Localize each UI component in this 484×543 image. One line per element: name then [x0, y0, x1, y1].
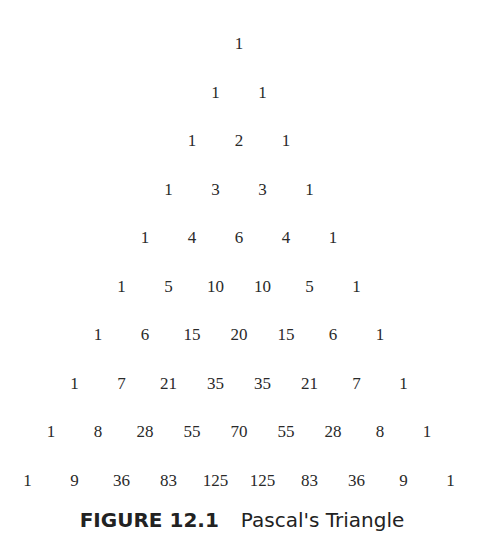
triangle-entry: 1	[423, 420, 432, 444]
triangle-entry: 28	[325, 420, 342, 444]
triangle-entry: 55	[278, 420, 295, 444]
triangle-entry: 1	[235, 32, 244, 56]
triangle-entry: 4	[282, 226, 291, 250]
triangle-entry: 9	[70, 469, 79, 493]
triangle-entry: 9	[399, 469, 408, 493]
triangle-entry: 28	[137, 420, 154, 444]
triangle-entry: 1	[94, 323, 103, 347]
triangle-entry: 1	[117, 275, 126, 299]
triangle-row: 172135352171	[0, 372, 484, 396]
triangle-entry: 8	[376, 420, 385, 444]
triangle-entry: 10	[207, 275, 224, 299]
triangle-entry: 1	[258, 81, 267, 105]
triangle-entry: 1	[329, 226, 338, 250]
figure-label: FIGURE 12.1	[80, 508, 219, 532]
triangle-entry: 3	[258, 178, 267, 202]
triangle-entry: 20	[231, 323, 248, 347]
triangle-entry: 83	[160, 469, 177, 493]
triangle-row: 15101051	[0, 275, 484, 299]
triangle-entry: 36	[348, 469, 365, 493]
triangle-entry: 55	[184, 420, 201, 444]
triangle-entry: 15	[184, 323, 201, 347]
triangle-entry: 2	[235, 129, 244, 153]
triangle-entry: 35	[207, 372, 224, 396]
triangle-entry: 6	[235, 226, 244, 250]
triangle-entry: 8	[94, 420, 103, 444]
triangle-entry: 1	[47, 420, 56, 444]
triangle-entry: 15	[278, 323, 295, 347]
triangle-row: 121	[0, 129, 484, 153]
triangle-entry: 36	[113, 469, 130, 493]
triangle-row: 11	[0, 81, 484, 105]
triangle-row: 1	[0, 32, 484, 56]
figure-caption: FIGURE 12.1Pascal's Triangle	[0, 506, 484, 534]
triangle-row: 1331	[0, 178, 484, 202]
triangle-entry: 83	[301, 469, 318, 493]
pascals-triangle-figure: 1111211331146411510105116152015611721353…	[0, 0, 484, 543]
triangle-row: 18285570552881	[0, 420, 484, 444]
triangle-entry: 1	[211, 81, 220, 105]
triangle-entry: 1	[70, 372, 79, 396]
triangle-entry: 1	[282, 129, 291, 153]
triangle-row: 193683125125833691	[0, 469, 484, 493]
triangle-entry: 1	[376, 323, 385, 347]
triangle-entry: 5	[305, 275, 314, 299]
triangle-entry: 125	[203, 469, 229, 493]
triangle-entry: 7	[352, 372, 361, 396]
triangle-entry: 1	[399, 372, 408, 396]
triangle-entry: 10	[254, 275, 271, 299]
triangle-entry: 21	[160, 372, 177, 396]
triangle-row: 1615201561	[0, 323, 484, 347]
triangle-row: 14641	[0, 226, 484, 250]
triangle-entry: 7	[117, 372, 126, 396]
triangle-entry: 6	[141, 323, 150, 347]
triangle-entry: 1	[446, 469, 455, 493]
triangle-entry: 3	[211, 178, 220, 202]
triangle-entry: 4	[188, 226, 197, 250]
triangle-entry: 21	[301, 372, 318, 396]
triangle-entry: 1	[23, 469, 32, 493]
triangle-entry: 1	[352, 275, 361, 299]
triangle-entry: 6	[329, 323, 338, 347]
triangle-entry: 1	[141, 226, 150, 250]
triangle-entry: 125	[250, 469, 276, 493]
triangle-entry: 1	[188, 129, 197, 153]
triangle-entry: 1	[305, 178, 314, 202]
triangle-entry: 5	[164, 275, 173, 299]
figure-title: Pascal's Triangle	[241, 508, 404, 532]
triangle-entry: 1	[164, 178, 173, 202]
triangle-entry: 70	[231, 420, 248, 444]
triangle-entry: 35	[254, 372, 271, 396]
